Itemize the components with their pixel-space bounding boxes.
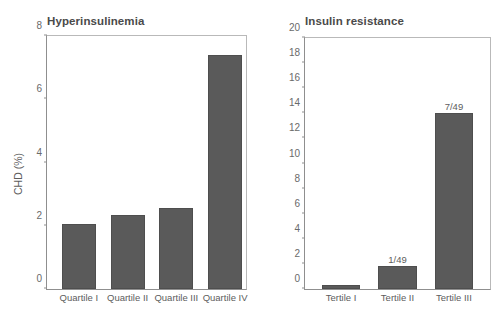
y-tick-label: 6 xyxy=(294,199,305,209)
y-tick-mark xyxy=(302,288,305,289)
y-tick-label: 8 xyxy=(36,21,47,31)
y-tick-mark xyxy=(302,37,305,38)
y-tick-label: 16 xyxy=(289,73,305,83)
bar-value-label: 1/49 xyxy=(388,254,407,265)
y-tick-mark xyxy=(44,35,47,36)
x-tick-label-tertile-1: Tertile I xyxy=(326,293,357,303)
y-tick-mark xyxy=(302,87,305,88)
y-tick-label: 20 xyxy=(289,23,305,33)
y-tick-label: 18 xyxy=(289,48,305,58)
y-tick-mark xyxy=(44,98,47,99)
bar-tertile-3: 7/49 xyxy=(435,113,474,289)
bar-quartile-2 xyxy=(111,215,145,289)
y-tick-label: 4 xyxy=(294,224,305,234)
bar-quartile-3 xyxy=(159,208,193,289)
figure-root: Hyperinsulinemia CHD (%) 0 2 4 6 8 Quart… xyxy=(0,0,492,328)
x-tick-label-quartile-4: Quartile IV xyxy=(203,293,248,303)
y-tick-mark xyxy=(302,112,305,113)
y-tick-label: 10 xyxy=(289,149,305,159)
plot-area-insulin-resistance: 0 2 4 6 8 10 12 14 16 18 20 xyxy=(304,37,491,290)
y-tick-mark xyxy=(302,137,305,138)
x-tick-label-tertile-3: Tertile III xyxy=(436,293,472,303)
x-tick-label-tertile-2: Tertile II xyxy=(381,293,414,303)
y-tick-mark xyxy=(302,162,305,163)
y-tick-label: 0 xyxy=(36,274,47,284)
y-tick-mark xyxy=(302,62,305,63)
y-tick-mark xyxy=(302,187,305,188)
y-axis-label-chd: CHD (%) xyxy=(12,153,24,195)
y-tick-mark xyxy=(302,212,305,213)
x-tick-label-quartile-2: Quartile II xyxy=(107,293,148,303)
y-tick-label: 2 xyxy=(294,249,305,259)
y-tick-label: 4 xyxy=(36,148,47,158)
x-tick-label-quartile-1: Quartile I xyxy=(60,293,99,303)
y-tick-label: 2 xyxy=(36,211,47,221)
panel-title-hyperinsulinemia: Hyperinsulinemia xyxy=(47,15,144,27)
y-tick-label: 14 xyxy=(289,98,305,108)
y-tick-label: 8 xyxy=(294,174,305,184)
panel-hyperinsulinemia: Hyperinsulinemia CHD (%) 0 2 4 6 8 Quart… xyxy=(0,0,250,328)
bar-tertile-1 xyxy=(322,285,361,289)
y-tick-label: 12 xyxy=(289,123,305,133)
y-tick-label: 6 xyxy=(36,84,47,94)
y-tick-mark xyxy=(44,288,47,289)
y-tick-label: 0 xyxy=(294,274,305,284)
x-tick-label-quartile-3: Quartile III xyxy=(154,293,198,303)
plot-area-hyperinsulinemia: 0 2 4 6 8 Quartile I Quartile II Quartil… xyxy=(46,35,247,290)
y-tick-mark xyxy=(302,237,305,238)
bar-value-label: 7/49 xyxy=(445,101,464,112)
y-tick-mark xyxy=(44,161,47,162)
panel-title-insulin-resistance: Insulin resistance xyxy=(305,15,404,27)
y-tick-mark xyxy=(44,224,47,225)
panel-insulin-resistance: Insulin resistance 0 2 4 6 8 10 12 14 16… xyxy=(250,0,492,328)
bar-quartile-1 xyxy=(62,224,96,289)
bar-tertile-2: 1/49 xyxy=(378,266,417,289)
y-tick-mark xyxy=(302,262,305,263)
bar-quartile-4 xyxy=(208,55,242,289)
